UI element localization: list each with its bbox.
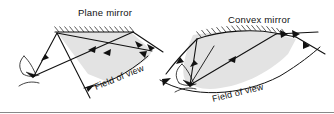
convex-fov-right-edge-diagonal: [296, 37, 325, 54]
convex-fov-shaded-region: [183, 31, 296, 89]
figure-canvas: Plane mirror Field of view: [0, 0, 334, 114]
convex-mirror-heading: Convex mirror: [228, 14, 290, 25]
plane-mirror-heading: Plane mirror: [78, 7, 132, 18]
convex-mirror-panel: Convex mirror Field of view: [160, 14, 325, 104]
plane-mirror-hatching: [55, 27, 135, 33]
mirror-field-of-view-figure: Plane mirror Field of view: [0, 0, 334, 114]
plane-mirror-panel: Plane mirror Field of view: [19, 7, 163, 98]
plane-arrow-incident-left: [41, 54, 49, 61]
plane-observer-eye: [19, 56, 39, 86]
